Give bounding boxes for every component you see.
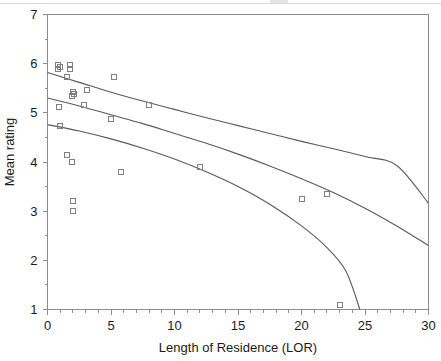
x-tick-label: 0 (44, 318, 51, 333)
y-tick-label: 3 (30, 204, 37, 219)
axis-labels-layer: 1234567051015202530Length of Residence (… (2, 7, 436, 355)
axes-layer (43, 15, 429, 315)
data-point-marker (56, 104, 61, 109)
scatter-plot: 1234567051015202530Length of Residence (… (0, 0, 441, 361)
regression-line (48, 98, 429, 246)
data-point-marker (70, 199, 75, 204)
data-point-marker (111, 74, 116, 79)
y-tick-label: 6 (30, 56, 37, 71)
data-point-marker (337, 302, 342, 307)
x-tick-label: 10 (167, 318, 181, 333)
lower-confidence-curve (48, 125, 360, 310)
y-tick-label: 5 (30, 105, 37, 120)
data-point-marker (324, 192, 329, 197)
y-tick-label: 2 (30, 253, 37, 268)
data-point-marker (82, 102, 87, 107)
data-point-marker (70, 209, 75, 214)
data-point-marker (69, 160, 74, 165)
upper-confidence-curve (48, 73, 429, 204)
data-point-marker (64, 152, 69, 157)
chart-page: 1234567051015202530Length of Residence (… (0, 0, 441, 361)
y-tick-label: 7 (30, 7, 37, 22)
x-tick-label: 25 (358, 318, 372, 333)
data-points-layer (55, 62, 342, 307)
y-tick-label: 4 (30, 155, 37, 170)
x-tick-label: 15 (231, 318, 245, 333)
x-tick-label: 30 (421, 318, 435, 333)
fit-lines-layer (48, 73, 429, 310)
data-point-marker (299, 196, 304, 201)
data-point-marker (109, 116, 114, 121)
x-tick-label: 20 (294, 318, 308, 333)
y-tick-label: 1 (30, 302, 37, 317)
x-axis-title: Length of Residence (LOR) (159, 340, 317, 355)
data-point-marker (84, 88, 89, 93)
x-tick-label: 5 (107, 318, 114, 333)
data-point-marker (119, 169, 124, 174)
y-axis-title: Mean rating (2, 118, 17, 187)
